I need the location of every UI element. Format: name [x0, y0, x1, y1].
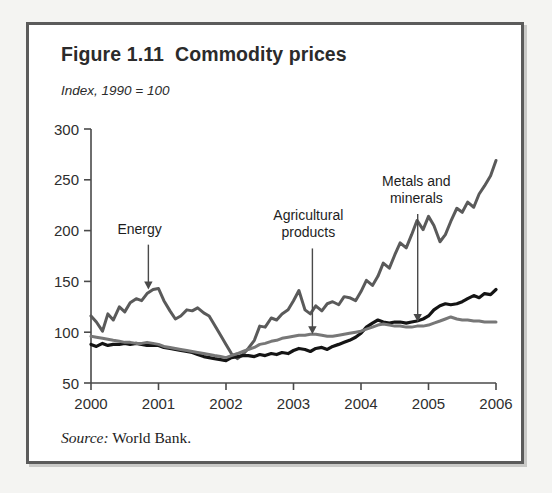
chart-axes: [84, 129, 496, 390]
page-title: Figure 1.11 Commodity prices: [61, 43, 347, 66]
annotation-label: Metals andminerals: [382, 173, 450, 206]
series-line-metals-and-minerals: [91, 290, 496, 361]
y-tick-label: 100: [54, 324, 79, 341]
chart-annotations-group: EnergyAgriculturalproductsMetals andmine…: [117, 173, 450, 334]
figure-container: Figure 1.11 Commodity prices Index, 1990…: [0, 0, 552, 493]
x-tick-label: 2000: [74, 395, 107, 412]
y-tick-label: 200: [54, 222, 79, 239]
source-label: Source:: [61, 429, 109, 446]
y-tick-label: 150: [54, 273, 79, 290]
axis-units-label: Index, 1990 = 100: [61, 83, 169, 98]
y-axis-tick-labels: 50100150200250300: [54, 121, 79, 392]
annotation-label: Energy: [117, 221, 161, 237]
source-value: World Bank.: [109, 429, 191, 446]
x-tick-label: 2005: [412, 395, 445, 412]
figure-frame: Figure 1.11 Commodity prices Index, 1990…: [26, 22, 524, 464]
x-tick-label: 2003: [277, 395, 310, 412]
x-tick-label: 2002: [209, 395, 242, 412]
y-tick-label: 50: [62, 375, 79, 392]
series-line-agricultural-products: [91, 317, 496, 358]
annotation-arrow-head: [414, 314, 422, 322]
source-note: Source: World Bank.: [61, 429, 191, 447]
annotation-arrow-head: [308, 326, 316, 334]
series-line-energy: [91, 161, 496, 359]
y-tick-label: 250: [54, 171, 79, 188]
x-tick-label: 2006: [479, 395, 512, 412]
annotation-label: Agriculturalproducts: [273, 207, 343, 240]
annotation-arrow-head: [144, 282, 152, 290]
chart-series-group: [91, 161, 496, 361]
x-tick-label: 2001: [142, 395, 175, 412]
y-tick-label: 300: [54, 121, 79, 138]
x-tick-label: 2004: [344, 395, 377, 412]
x-axis-tick-labels: 2000200120022003200420052006: [74, 395, 512, 412]
